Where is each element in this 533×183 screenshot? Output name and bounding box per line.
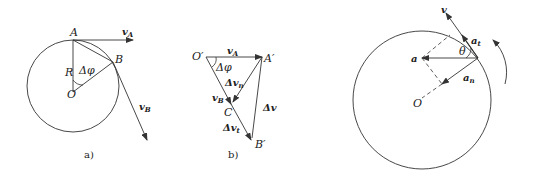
label-vB-b: vB	[212, 92, 224, 105]
kinematics-diagram: A B O R Δφ vA vB a) O′ A′ B′ C Δφ vA vB …	[0, 0, 533, 183]
figure-b: O′ A′ B′ C Δφ vA vB Δvn Δvt Δv b)	[192, 45, 277, 160]
label-dvt: Δvt	[222, 122, 241, 135]
label-C: C	[224, 106, 233, 119]
label-A-prime: A′	[263, 52, 275, 65]
label-vB: vB	[139, 101, 151, 114]
label-dvn: Δvn	[224, 77, 244, 90]
dashed-to-center	[422, 84, 442, 98]
label-O-prime: O′	[192, 50, 204, 63]
label-O: O	[67, 88, 76, 101]
label-delta-phi-b: Δφ	[215, 61, 232, 74]
label-B: B	[114, 53, 123, 66]
dashed-parallel-an	[422, 58, 442, 84]
label-an: an	[463, 72, 475, 85]
dv-vector	[252, 57, 262, 138]
label-delta-phi: Δφ	[78, 64, 95, 77]
label-R: R	[64, 66, 73, 79]
figure-c: v a O θ at an	[353, 4, 507, 169]
label-theta: θ	[459, 45, 466, 58]
chord-AB	[73, 40, 113, 62]
rotation-direction-arrow	[493, 40, 507, 84]
label-dv: Δv	[262, 102, 277, 113]
dashed-parallel-at	[422, 35, 450, 58]
figure-a: A B O R Δφ vA vB a)	[27, 26, 151, 160]
label-at: at	[471, 35, 481, 48]
caption-b: b)	[228, 149, 238, 160]
label-A: A	[69, 26, 78, 39]
label-vA: vA	[122, 26, 134, 39]
label-a: a	[411, 53, 417, 64]
label-v: v	[441, 4, 447, 15]
label-vA-b: vA	[227, 45, 239, 58]
angle-arc	[73, 80, 83, 85]
label-O-c: O	[413, 97, 422, 110]
label-B-prime: B′	[254, 138, 266, 151]
caption-a: a)	[84, 149, 94, 160]
